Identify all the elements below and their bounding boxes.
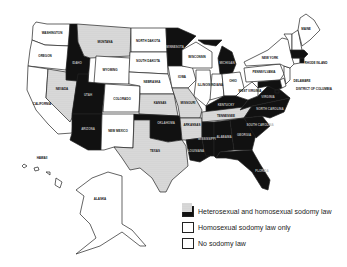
label-nebraska: NEBRASKA [143, 80, 161, 84]
label-rhode-island: RHODE ISLAND [305, 61, 329, 65]
state-district-of-columbia[interactable] [275, 90, 279, 93]
label-texas: TEXAS [150, 149, 160, 153]
label-pennsylvania: PENNSYLVANIA [252, 70, 276, 74]
label-wisconsin: WISCONSIN [188, 55, 205, 59]
label-kansas: KANSAS [154, 101, 167, 105]
label-virginia: VIRGINIA [261, 95, 275, 99]
legend-item-homosexual-only: Homosexual sodomy law only [182, 219, 331, 235]
label-arkansas: ARKANSAS [183, 123, 200, 127]
state-rhode-island[interactable] [300, 58, 304, 63]
label-north-dakota: NORTH DAKOTA [136, 39, 161, 43]
legend-label-homosexual-only: Homosexual sodomy law only [198, 224, 291, 231]
label-delaware: DELAWARE [293, 79, 310, 83]
label-kentucky: KENTUCKY [218, 103, 235, 107]
map-legend: Heterosexual and homosexual sodomy law H… [182, 203, 331, 251]
label-iowa: IOWA [178, 75, 187, 79]
state-massachusetts[interactable] [290, 50, 308, 58]
label-minnesota: MINNESOTA [166, 45, 185, 49]
state-indiana[interactable] [210, 74, 224, 100]
label-district-of-columbia: DISTRICT OF COLUMBIA [296, 87, 333, 91]
legend-label-none: No sodomy law [198, 240, 246, 247]
state-kansas[interactable] [139, 94, 178, 116]
label-alaska: ALASKA [94, 197, 107, 201]
state-alaska[interactable] [76, 172, 146, 254]
label-missouri: MISSOURI [181, 101, 196, 105]
label-colorado: COLORADO [113, 97, 131, 101]
label-new-mexico: NEW MEXICO [108, 129, 128, 133]
state-hawaii[interactable] [22, 164, 62, 188]
label-washington: WASHINGTON [42, 31, 63, 35]
label-arizona: ARIZONA [81, 127, 95, 131]
label-new-york: NEW YORK [262, 56, 279, 60]
label-indiana: INDIANA [211, 83, 224, 87]
legend-item-both: Heterosexual and homosexual sodomy law [182, 203, 331, 219]
label-maine: MAINE [301, 27, 311, 31]
label-hawaii: HAWAII [37, 156, 48, 160]
label-oregon: OREGON [38, 54, 51, 58]
state-arizona[interactable] [70, 114, 102, 150]
label-georgia: GEORGIA [237, 133, 252, 137]
label-south-carolina: SOUTH CAROLINA [246, 123, 274, 127]
label-ohio: OHIO [229, 79, 237, 83]
label-illinois: ILLINOIS [198, 83, 211, 87]
label-oklahoma: OKLAHOMA [157, 121, 175, 125]
label-idaho: IDAHO [72, 61, 82, 65]
label-louisiana: LOUISIANA [188, 149, 205, 153]
label-montana: MONTANA [97, 40, 113, 44]
legend-swatch-none [182, 238, 194, 249]
label-north-carolina: NORTH CAROLINA [256, 107, 284, 111]
legend-item-none: No sodomy law [182, 235, 331, 251]
label-alabama: ALABAMA [216, 135, 232, 139]
label-west-virginia: WEST VIRGINIA [239, 89, 263, 93]
label-utah: UTAH [84, 93, 92, 97]
label-california: CALIFORNIA [33, 102, 52, 106]
label-florida: FLORIDA [255, 169, 269, 173]
label-mississippi: MISSISSIPPI [198, 137, 216, 141]
state-south-dakota[interactable] [129, 52, 168, 74]
label-michigan: MICHIGAN [219, 61, 234, 65]
legend-label-both: Heterosexual and homosexual sodomy law [198, 208, 331, 215]
label-tennessee: TENNESSEE [217, 114, 235, 118]
label-nevada: NEVADA [56, 87, 69, 91]
label-wyoming: WYOMING [103, 68, 119, 72]
label-south-dakota: SOUTH DAKOTA [136, 59, 161, 63]
